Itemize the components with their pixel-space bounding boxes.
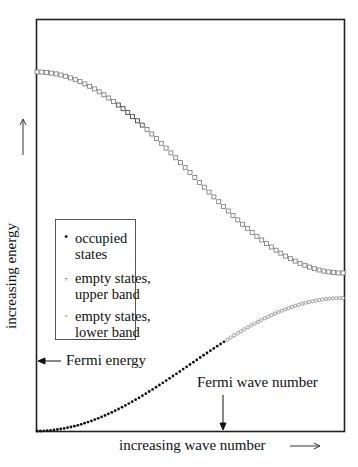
- empty-lower-band-marker: [321, 298, 324, 301]
- empty-lower-band-marker: [284, 308, 287, 311]
- upper-band-marker: [250, 230, 254, 234]
- upper-band-marker: [35, 70, 39, 74]
- occupied-state-marker: [87, 421, 90, 424]
- occupied-state-marker: [49, 429, 52, 432]
- upper-band-marker: [83, 82, 87, 86]
- upper-band-marker: [159, 141, 163, 145]
- empty-lower-band-marker: [253, 322, 256, 325]
- upper-band-marker: [69, 76, 73, 80]
- band-diagram: [0, 0, 358, 467]
- empty-lower-band-marker: [239, 330, 242, 333]
- y-axis-arrow-icon: [20, 119, 26, 155]
- x-axis-label: increasing wave number: [119, 437, 266, 454]
- upper-band-marker: [212, 195, 216, 199]
- occupied-state-marker: [97, 417, 100, 420]
- empty-lower-band-marker: [260, 318, 263, 321]
- upper-band-marker: [331, 271, 335, 275]
- occupied-state-marker: [59, 428, 62, 431]
- upper-band-marker: [308, 265, 312, 269]
- upper-band-marker: [64, 74, 68, 78]
- occupied-state-marker: [189, 363, 192, 366]
- upper-band-marker: [260, 238, 264, 242]
- legend: • occupied states ▫ empty states, upper …: [55, 219, 136, 340]
- occupied-state-marker: [83, 422, 86, 425]
- occupied-state-marker: [80, 423, 83, 426]
- upper-band-marker: [59, 73, 63, 77]
- occupied-state-marker: [158, 384, 161, 387]
- upper-band-marker: [193, 175, 197, 179]
- empty-lower-band-marker: [318, 298, 321, 301]
- occupied-state-marker: [216, 345, 219, 348]
- occupied-state-marker: [53, 429, 56, 432]
- upper-band-marker: [322, 269, 326, 273]
- occupied-state-marker: [104, 414, 107, 417]
- open-circle-icon: ◦: [62, 308, 70, 324]
- occupied-state-marker: [100, 416, 103, 419]
- upper-band-marker: [164, 146, 168, 150]
- filled-dot-icon: •: [62, 229, 70, 245]
- empty-lower-band-marker: [314, 299, 317, 302]
- occupied-state-marker: [66, 426, 69, 429]
- empty-lower-band-marker: [263, 317, 266, 320]
- occupied-state-marker: [192, 361, 195, 364]
- upper-band-marker: [269, 245, 273, 249]
- upper-band-marker: [78, 80, 82, 84]
- occupied-state-marker: [131, 400, 134, 403]
- occupied-state-marker: [209, 349, 212, 352]
- upper-band-marker: [222, 204, 226, 208]
- fermi-wave-number-arrow-icon: [220, 395, 226, 430]
- occupied-state-marker: [46, 429, 49, 432]
- upper-band-marker: [198, 180, 202, 184]
- occupied-state-marker: [134, 398, 137, 401]
- upper-band-marker: [317, 268, 321, 272]
- occupied-state-marker: [110, 411, 113, 414]
- occupied-state-marker: [161, 381, 164, 384]
- occupied-state-marker: [36, 430, 39, 433]
- empty-lower-band-marker: [277, 311, 280, 314]
- empty-lower-band-marker: [304, 301, 307, 304]
- occupied-state-marker: [151, 388, 154, 391]
- empty-lower-band-marker: [236, 332, 239, 335]
- open-square-icon: ▫: [62, 271, 70, 287]
- upper-band-marker: [298, 261, 302, 265]
- upper-band-marker: [183, 166, 187, 170]
- occupied-state-marker: [39, 430, 42, 433]
- upper-band-marker: [150, 132, 154, 136]
- upper-band-marker: [97, 90, 101, 94]
- occupied-state-marker: [185, 365, 188, 368]
- y-axis-label: increasing energy: [3, 223, 20, 329]
- upper-band-marker: [279, 251, 283, 255]
- upper-band-marker: [126, 111, 130, 115]
- upper-band-marker: [293, 259, 297, 263]
- occupied-state-marker: [141, 394, 144, 397]
- upper-band-marker: [40, 70, 44, 74]
- occupied-state-marker: [93, 418, 96, 421]
- empty-lower-band-marker: [287, 307, 290, 310]
- upper-band-marker: [336, 271, 340, 275]
- empty-lower-band-marker: [341, 296, 344, 299]
- upper-band-marker: [341, 271, 345, 275]
- upper-band-marker: [116, 103, 120, 107]
- upper-band-marker: [92, 87, 96, 91]
- upper-band-marker: [121, 107, 125, 111]
- upper-band-marker: [88, 84, 92, 88]
- empty-lower-band-marker: [270, 314, 273, 317]
- x-axis-arrow-icon: [290, 443, 320, 449]
- occupied-state-marker: [148, 390, 151, 393]
- occupied-state-marker: [76, 424, 79, 427]
- upper-band-marker: [145, 128, 149, 132]
- upper-band-marker: [255, 234, 259, 238]
- empty-lower-band-marker: [226, 338, 229, 341]
- upper-band-marker: [241, 222, 245, 226]
- upper-band-marker: [102, 93, 106, 97]
- upper-band-marker: [284, 254, 288, 258]
- upper-band-marker: [236, 218, 240, 222]
- empty-lower-band-marker: [338, 296, 341, 299]
- empty-lower-band-marker: [273, 312, 276, 315]
- upper-band-marker: [135, 119, 139, 123]
- occupied-state-marker: [144, 392, 147, 395]
- upper-band-marker: [45, 71, 49, 75]
- occupied-state-marker: [172, 375, 175, 378]
- occupied-state-marker: [42, 429, 45, 432]
- upper-band-marker: [188, 171, 192, 175]
